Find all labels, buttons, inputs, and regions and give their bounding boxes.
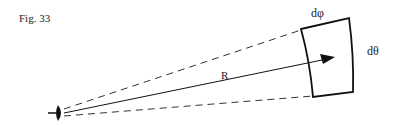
cone-lines <box>64 30 313 116</box>
radius-vector-line <box>64 59 327 113</box>
eye-icon <box>48 105 61 121</box>
cone-upper-line <box>64 30 301 109</box>
label-d-phi: dφ <box>311 6 324 20</box>
label-d-theta: dθ <box>367 44 379 58</box>
arrowhead-icon <box>320 54 335 64</box>
cone-lower-line <box>64 96 313 116</box>
solid-angle-diagram: R dφ dθ <box>0 0 399 125</box>
label-radius: R <box>221 69 229 81</box>
